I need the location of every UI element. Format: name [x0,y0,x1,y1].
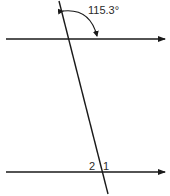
angle-measure-label: 115.3° [88,4,119,16]
transversal-line [59,1,108,194]
angle-1-label: 1 [103,160,109,172]
parallel-lines-diagram: 115.3° 2 1 [0,0,170,196]
angle-2-label: 2 [89,160,95,172]
